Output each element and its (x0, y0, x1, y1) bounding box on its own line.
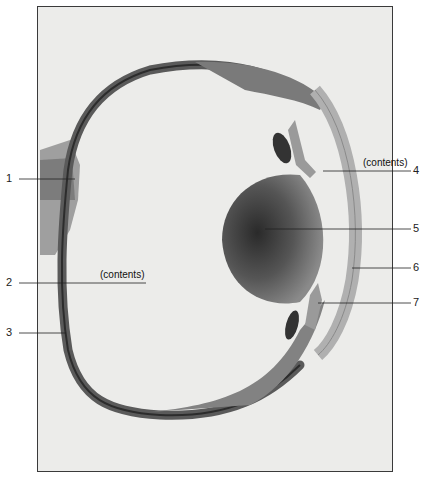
label-2: 2 (6, 277, 12, 288)
label-1: 1 (6, 173, 12, 184)
label-5: 5 (413, 223, 419, 234)
label-7: 7 (413, 297, 419, 308)
label-3: 3 (6, 327, 12, 338)
label-4: 4 (413, 165, 419, 176)
anterior-chamber-contents-label: (contents) (363, 158, 407, 168)
eye-histology-image (0, 0, 422, 498)
label-6: 6 (413, 262, 419, 273)
vitreous-contents-label: (contents) (100, 270, 144, 280)
